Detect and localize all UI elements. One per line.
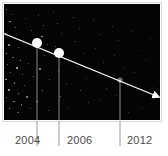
plot-canvas [0, 0, 168, 156]
marker-2004 [32, 38, 42, 48]
axis-tick-label-2004: 2004 [15, 134, 40, 146]
axis-tick-label-2012: 2012 [127, 134, 152, 146]
marker-2006 [54, 48, 64, 58]
axis-tick-label-2006: 2006 [67, 134, 92, 146]
plot-panel [4, 4, 160, 120]
marker-2012 [117, 77, 122, 82]
chart-figure: 2004 2006 2012 [0, 0, 168, 156]
